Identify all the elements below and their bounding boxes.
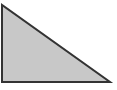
triangle-diagram xyxy=(0,0,117,90)
right-triangle-shape xyxy=(2,5,110,82)
diagram-canvas xyxy=(0,0,117,90)
